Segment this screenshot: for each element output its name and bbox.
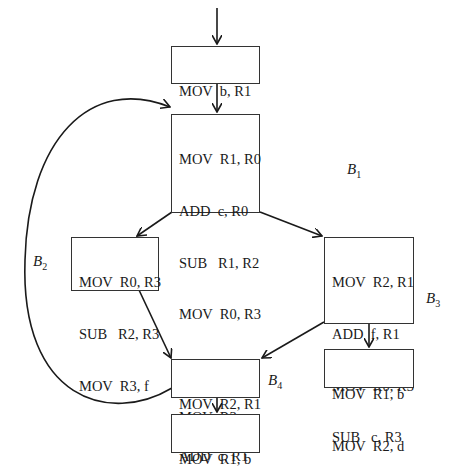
block-b4-exit: MOV R1, b MOV R2, d [171,414,260,453]
block-line: ADD c, R0 [179,203,259,220]
block-line: MOV R2, R1 [332,274,413,291]
edge-b1-b3 [260,212,322,236]
block-line: MOV R1, b [179,451,259,468]
block-line: MOV R3, f [79,378,158,395]
block-line: MOV R1, R0 [179,151,259,168]
block-line: MOV R2, d [332,438,413,455]
block-line: SUB R2, R3 [79,326,158,343]
block-line: MOV R0, R3 [79,274,158,291]
edge-b3-b4 [262,322,324,358]
block-line: MOV R2, R1 [179,396,259,413]
block-b3-exit: MOV R1, b MOV R2, d [324,349,414,388]
label-b4: B4 [268,372,282,391]
label-b2: B2 [33,253,47,272]
block-line: MOV R0, R3 [179,306,259,323]
block-b2: MOV R0, R3 SUB R2, R3 MOV R3, f [71,237,159,291]
label-b3: B3 [426,290,440,309]
edge-b1-b2 [137,212,172,236]
block-b1: MOV R1, R0 ADD c, R0 SUB R1, R2 MOV R0, … [171,114,260,213]
block-b3: MOV R2, R1 ADD f, R1 MOV R0, R3 SUB c, R… [324,237,414,324]
block-line: MOV R1, b [332,386,413,403]
block-entry: MOV b, R1 MOV d, R2 [171,46,260,84]
block-line: MOV b, R1 [179,83,259,100]
block-b4: MOV R2, R1 ADD c, R1 [171,359,260,398]
block-line: SUB R1, R2 [179,255,259,272]
block-line: ADD f, R1 [332,326,413,343]
label-b1: B1 [347,161,361,180]
